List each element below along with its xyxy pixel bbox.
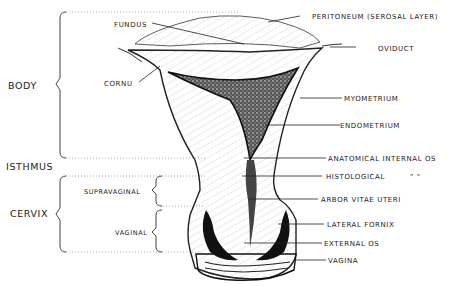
label-endometrium: ENDOMETRIUM <box>340 122 400 130</box>
region-supravaginal: SUPRAVAGINAL <box>84 188 141 196</box>
label-fundus: FUNDUS <box>114 21 147 29</box>
label-ditto: " " <box>410 173 420 181</box>
region-body: BODY <box>8 80 37 91</box>
label-oviduct: OVIDUCT <box>378 45 414 53</box>
label-peritoneum: PERITONEUM (SEROSAL LAYER) <box>312 13 438 21</box>
uterus-diagram: BODY ISTHMUS CERVIX SUPRAVAGINAL VAGINAL… <box>0 0 464 286</box>
region-cervix: CERVIX <box>10 208 48 219</box>
label-arbor-vitae: ARBOR VITAE UTERI <box>321 196 401 204</box>
label-lateral-fornix: LATERAL FORNIX <box>327 221 394 229</box>
uterus-illustration <box>118 16 342 281</box>
label-anatomical-internal-os: ANATOMICAL INTERNAL OS <box>328 155 436 163</box>
label-myometrium: MYOMETRIUM <box>344 95 398 103</box>
braces <box>56 12 162 252</box>
region-isthmus: ISTHMUS <box>6 161 53 172</box>
label-cornu: CORNU <box>104 80 133 88</box>
region-vaginal: VAGINAL <box>115 229 147 237</box>
label-external-os: EXTERNAL OS <box>324 240 379 248</box>
label-vagina: VAGINA <box>328 257 358 265</box>
label-histological: HISTOLOGICAL <box>326 173 385 181</box>
